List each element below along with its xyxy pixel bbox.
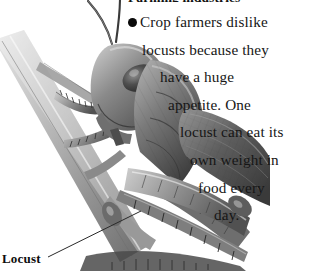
body-line: appetite. One — [128, 91, 335, 119]
body-line: food every — [128, 174, 335, 202]
body-line-text: Crop farmers dislike — [140, 13, 268, 30]
antennae-group — [88, 0, 120, 44]
ground-shadow — [80, 251, 246, 271]
body-line: have a huge — [128, 63, 335, 91]
bullet-point-icon — [128, 18, 137, 27]
body-line: Crop farmers dislike — [128, 8, 335, 36]
section-heading: Farming industries — [128, 0, 335, 2]
section-heading-text: Farming industries — [128, 0, 335, 2]
body-line: locusts because they — [128, 36, 335, 64]
body-line: locust can eat its — [128, 118, 335, 146]
body-line: day. — [128, 201, 335, 229]
figure-caption-locust: Locust — [2, 251, 41, 266]
body-text-block: Crop farmers dislike locusts because the… — [128, 8, 335, 229]
textbook-page: Farming industries Crop farmers dislike … — [0, 0, 335, 271]
body-line: own weight in — [128, 146, 335, 174]
